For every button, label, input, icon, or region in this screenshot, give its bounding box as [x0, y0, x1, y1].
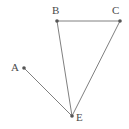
vertex-label-C: C [112, 5, 119, 16]
vertex-label-A: A [11, 62, 19, 73]
vertex-dot-B [55, 19, 59, 23]
figure-svg [0, 0, 129, 129]
geometry-figure: A B C E [0, 0, 129, 129]
segment-BE [57, 21, 72, 116]
vertex-dot-E [70, 114, 74, 118]
segment-group [24, 21, 120, 116]
vertex-dot-group [22, 19, 122, 118]
vertex-label-E: E [76, 112, 83, 123]
segment-AE [24, 68, 72, 116]
vertex-dot-A [22, 66, 26, 70]
segment-CE [72, 21, 120, 116]
vertex-dot-C [118, 19, 122, 23]
vertex-label-B: B [52, 5, 59, 16]
